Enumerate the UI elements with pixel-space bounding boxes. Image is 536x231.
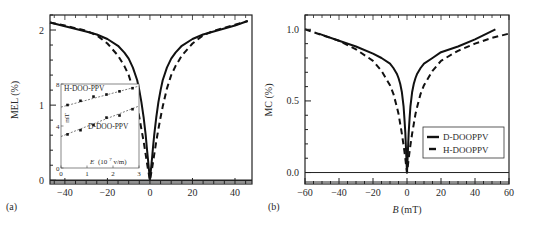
inset-y-axis-label: mT [63,112,71,122]
x-tick-label: 40 [230,187,240,198]
y-tick-label: 2 [39,25,44,36]
inset-x-tick-label: 1 [85,170,89,178]
panel-a-y-axis-label: MEL (%) [9,81,21,119]
inset-y-tick-label: 8 [56,81,60,89]
inset-series-label-d: D-DOO-PPV [88,122,129,131]
panel-b-label: (b) [268,201,280,213]
inset-data-point [118,90,121,93]
x-tick-label: 20 [436,187,446,198]
y-tick-label: 1 [39,100,44,111]
inset-data-point [105,93,108,96]
x-tick-label: 0 [147,187,152,198]
inset-x-tick-label: 3 [137,170,141,178]
panel-b-mc-chart: −60−40−2002040600.00.51.0 MC (%) B (mT) … [263,15,514,216]
panel-b-axis-ticks: −60−40−2002040600.00.51.0 [287,15,515,198]
inset-data-point [131,108,134,111]
x-tick-label: 20 [187,187,197,198]
panel-b-x-unit: (mT) [399,204,422,216]
x-tick-label: 0 [405,187,410,198]
y-tick-label: 1.0 [287,24,300,35]
inset-x-tail: v/m) [113,158,127,166]
inset-series-label-h: H-DOO-PPV [64,84,105,93]
inset-data-point [66,133,69,136]
inset-data-point [92,95,95,98]
panel-b-legend: D-DOOPPV H-DOOPPV [423,127,504,158]
x-tick-label: 60 [504,187,514,198]
panel-a-label: (a) [6,201,17,213]
y-tick-label: 0 [39,175,44,186]
x-tick-label: −60 [297,187,313,198]
inset-x-var: E [89,158,95,166]
legend-entry-h: H-DOOPPV [443,145,489,155]
x-tick-label: 40 [470,187,480,198]
x-tick-label: −20 [100,187,116,198]
inset-x-tick-label: 2 [111,170,115,178]
panel-b-y-axis-label: MC (%) [263,83,275,116]
figure: −40−2002040012 MEL (%) (a) 0123048 H-DOO… [0,0,536,231]
panel-b-x-axis-label: B (mT) [392,204,421,216]
legend-entry-d: D-DOOPPV [443,132,489,142]
inset-x-unit: (10 [98,158,108,166]
inset-data-point [131,87,134,90]
inset-x-tick-label: 0 [59,170,63,178]
panel-a-inset-chart: 0123048 H-DOO-PPV D-DOO-PPV mT E (10 7 v… [56,81,141,179]
inset-data-point [66,104,69,107]
y-tick-label: 0.0 [287,167,300,178]
inset-x-exp: 7 [109,157,112,162]
panel-a-mel-chart: −40−2002040012 MEL (%) (a) 0123048 H-DOO… [6,15,252,213]
inset-data-point [118,114,121,117]
inset-y-tick-label: 0 [56,165,60,173]
y-tick-label: 0.5 [287,95,300,106]
x-tick-label: −20 [365,187,381,198]
inset-data-point [105,116,108,119]
inset-data-point [79,129,82,132]
inset-y-tick-label: 4 [56,123,60,131]
inset-data-point [79,100,82,103]
x-tick-label: −40 [57,187,73,198]
x-tick-label: −40 [331,187,347,198]
